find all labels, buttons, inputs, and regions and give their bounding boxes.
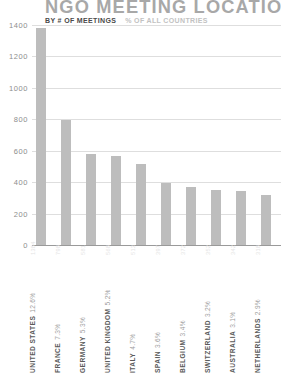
x-axis-label-group: 372BELGIUM3.4% — [184, 245, 198, 373]
y-axis-tick: 800 — [0, 115, 28, 124]
x-axis-label-group: 513ITALY4.7% — [134, 245, 148, 373]
x-axis-label-group: 342AUSTRALIA3.1% — [234, 245, 248, 373]
x-axis-label-group: 568UNITED KINGDOM5.2% — [109, 245, 123, 373]
bar-value-label: 513 — [130, 245, 136, 255]
x-axis-category-label: AUSTRALIA3.1% — [229, 312, 236, 373]
bar-value-label: 798 — [55, 245, 61, 255]
bar[interactable] — [186, 187, 196, 245]
bar-value-label: 372 — [180, 245, 186, 255]
category-percent: 3.6% — [154, 332, 161, 348]
category-name: NETHERLANDS — [254, 318, 261, 373]
y-axis-tick: 200 — [0, 210, 28, 219]
bar-value-label: 581 — [80, 245, 86, 255]
y-axis-tick: 400 — [0, 178, 28, 187]
y-axis-tick: 0 — [0, 241, 28, 250]
bar-value-label: 342 — [230, 245, 236, 255]
x-axis-label-group: 352SWITZERLAND3.2% — [209, 245, 223, 373]
x-axis-label-group: 397SPAIN3.6% — [159, 245, 173, 373]
category-percent: 2.9% — [254, 299, 261, 315]
bar[interactable] — [86, 154, 96, 245]
category-percent: 4.7% — [129, 334, 136, 350]
bar[interactable] — [161, 183, 171, 245]
bar-value-label: 397 — [155, 245, 161, 255]
category-percent: 12.6% — [29, 293, 36, 313]
x-axis-labels: 1384UNITED STATES12.6%798FRANCE7.3%581GE… — [32, 245, 281, 373]
x-axis-category-label: UNITED STATES12.6% — [29, 293, 36, 373]
category-name: GERMANY — [79, 336, 86, 373]
x-axis-category-label: SPAIN3.6% — [154, 332, 161, 373]
x-axis-label-group: 798FRANCE7.3% — [59, 245, 73, 373]
legend-item-meetings[interactable]: BY # OF MEETINGS — [45, 17, 116, 24]
category-name: FRANCE — [54, 343, 61, 373]
category-name: SPAIN — [154, 351, 161, 373]
x-axis-label-group: 318NETHERLANDS2.9% — [259, 245, 273, 373]
bar-value-label: 568 — [105, 245, 111, 255]
x-axis-category-label: SWITZERLAND3.2% — [204, 301, 211, 373]
y-axis-tick: 600 — [0, 147, 28, 156]
x-axis-category-label: NETHERLANDS2.9% — [254, 299, 261, 373]
category-name: UNITED KINGDOM — [104, 308, 111, 373]
bar[interactable] — [61, 120, 71, 245]
category-percent: 7.3% — [54, 324, 61, 340]
ngo-meeting-locations-chart: NGO MEETING LOCATION BY # OF MEETINGS % … — [0, 0, 281, 373]
bar[interactable] — [211, 190, 221, 245]
chart-title: NGO MEETING LOCATION — [45, 0, 281, 17]
bar-value-label: 318 — [255, 245, 261, 255]
plot-area — [32, 25, 281, 245]
chart-legend: BY # OF MEETINGS % OF ALL COUNTRIES — [45, 17, 208, 24]
y-axis-tick: 1400 — [0, 21, 28, 30]
category-name: SWITZERLAND — [204, 320, 211, 373]
bar[interactable] — [236, 191, 246, 245]
category-name: AUSTRALIA — [229, 331, 236, 373]
bar[interactable] — [136, 164, 146, 245]
category-percent: 3.2% — [204, 301, 211, 317]
y-axis-tick: 1200 — [0, 52, 28, 61]
category-percent: 5.3% — [79, 317, 86, 333]
x-axis-category-label: BELGIUM3.4% — [179, 320, 186, 373]
bar[interactable] — [261, 195, 271, 245]
category-name: BELGIUM — [179, 339, 186, 373]
bar-series — [32, 25, 281, 245]
category-name: UNITED STATES — [29, 316, 36, 373]
x-axis-category-label: UNITED KINGDOM5.2% — [104, 289, 111, 373]
category-percent: 3.1% — [229, 312, 236, 328]
bar[interactable] — [111, 156, 121, 245]
bar-value-label: 1384 — [30, 241, 36, 255]
x-axis-category-label: GERMANY5.3% — [79, 317, 86, 373]
x-axis-category-label: FRANCE7.3% — [54, 324, 61, 373]
category-percent: 3.4% — [179, 320, 186, 336]
bar-value-label: 352 — [205, 245, 211, 255]
category-name: ITALY — [129, 353, 136, 373]
y-axis-tick: 1000 — [0, 84, 28, 93]
x-axis-label-group: 1384UNITED STATES12.6% — [34, 245, 48, 373]
x-axis-label-group: 581GERMANY5.3% — [84, 245, 98, 373]
x-axis-category-label: ITALY4.7% — [129, 334, 136, 373]
category-percent: 5.2% — [104, 289, 111, 305]
legend-item-percent-countries[interactable]: % OF ALL COUNTRIES — [125, 17, 208, 24]
bar[interactable] — [36, 28, 46, 245]
